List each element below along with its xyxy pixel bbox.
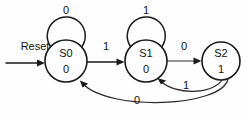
state-s2-output: 1 [218, 63, 224, 75]
reset-label: Reset [21, 40, 50, 52]
transition-s2-to-s0-group [80, 79, 228, 103]
transition-s0-to-s0-label: 0 [63, 4, 69, 16]
reset-arrowhead-icon [37, 59, 45, 66]
transition-s1-to-s2-group [167, 57, 202, 64]
fsm-svg: Reset 0 1 1 0 1 [0, 0, 248, 115]
state-node-s2[interactable]: S2 1 [202, 42, 240, 80]
transition-s2-to-s1-label: 1 [183, 79, 189, 91]
transition-s0-to-s1-group [87, 58, 125, 65]
reset-arrow-group [6, 59, 45, 66]
state-node-s0[interactable]: S0 0 [45, 40, 87, 82]
state-node-s1[interactable]: S1 0 [125, 40, 167, 82]
transition-s1-to-s2-arrowhead-icon [194, 57, 202, 64]
transition-s2-to-s1-path [161, 80, 223, 91]
transition-s2-to-s1-group [158, 78, 223, 91]
transition-s2-to-s0-arrowhead-icon [80, 81, 88, 88]
transition-s2-to-s0-path [83, 79, 229, 103]
transition-s0-to-s1-arrowhead-icon [117, 58, 125, 65]
transition-s2-to-s0-label: 0 [134, 94, 140, 106]
transition-s2-to-s1-arrowhead-icon [158, 78, 167, 84]
state-s0-output: 0 [63, 63, 69, 75]
fsm-diagram-canvas: Reset 0 1 1 0 1 [0, 0, 248, 115]
state-s1-name: S1 [139, 47, 152, 59]
transition-s1-to-s1-label: 1 [143, 4, 149, 16]
state-s1-output: 0 [143, 63, 149, 75]
state-s0-name: S0 [59, 47, 72, 59]
state-s2-name: S2 [214, 47, 227, 59]
transition-s1-to-s2-label: 0 [181, 40, 187, 52]
transition-s0-to-s1-label: 1 [103, 40, 109, 52]
